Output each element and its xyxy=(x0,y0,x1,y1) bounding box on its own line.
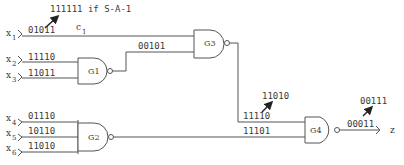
svg-text:x: x xyxy=(6,128,11,138)
output-z-label: z xyxy=(390,125,395,135)
gate-g3: G3 xyxy=(194,30,230,58)
gate-g4: G4 xyxy=(305,117,340,143)
gate-g2: G2 xyxy=(78,120,114,154)
svg-text:5: 5 xyxy=(12,134,16,142)
svg-text:x: x xyxy=(6,70,11,80)
svg-text:x: x xyxy=(6,113,11,123)
stuck-at-annotation: 111111 if S-A-1 xyxy=(50,4,131,14)
svg-text:x: x xyxy=(6,54,11,64)
g1-output-wire xyxy=(113,52,197,71)
svg-text:x: x xyxy=(6,28,11,38)
input-x3: x 3 11011 xyxy=(6,68,78,84)
svg-text:6: 6 xyxy=(12,149,17,157)
x5-value: 10110 xyxy=(28,126,55,136)
gate-g1: G1 xyxy=(78,58,113,84)
x1-value: 01011 xyxy=(28,25,55,35)
svg-text:G1: G1 xyxy=(88,67,99,76)
x4-value: 01110 xyxy=(28,111,55,121)
x6-value: 11010 xyxy=(28,141,55,151)
x2-value: 11110 xyxy=(28,52,55,62)
g4-output-value: 00011 xyxy=(347,119,374,129)
svg-text:G3: G3 xyxy=(204,39,215,48)
input-x1: x 1 01011 c 1 xyxy=(6,22,196,42)
g1-output-value: 00101 xyxy=(138,41,165,51)
input-x4: x 4 01110 xyxy=(6,111,78,127)
input-x2: x 2 11110 xyxy=(6,52,78,68)
svg-text:4: 4 xyxy=(12,119,17,127)
input-chevron-icon xyxy=(18,30,22,38)
svg-text:3: 3 xyxy=(12,76,16,84)
svg-text:1: 1 xyxy=(12,34,16,42)
g2-output-value: 11101 xyxy=(243,126,270,136)
g4-faulty-value: 00111 xyxy=(360,96,387,106)
svg-text:2: 2 xyxy=(12,60,16,68)
g3-output-value: 11110 xyxy=(243,111,270,121)
input-x5: x 5 10110 xyxy=(6,126,78,142)
logic-circuit-diagram: 111111 if S-A-1 x 1 01011 c 1 x 2 11110 … xyxy=(0,0,404,165)
fault-arrow-icon xyxy=(363,109,370,116)
svg-text:1: 1 xyxy=(82,28,86,36)
svg-text:G2: G2 xyxy=(88,133,99,142)
input-x6: x 6 11010 xyxy=(6,141,78,157)
wire-c1-label: c xyxy=(76,22,81,32)
g3-faulty-value: 11010 xyxy=(262,91,289,101)
svg-text:G4: G4 xyxy=(310,126,321,135)
x3-value: 11011 xyxy=(28,68,55,78)
svg-text:x: x xyxy=(6,143,11,153)
